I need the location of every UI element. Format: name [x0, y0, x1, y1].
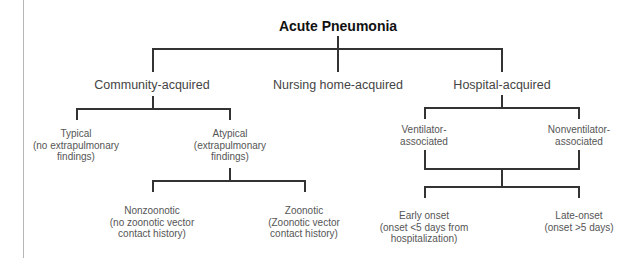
- nonzoonotic-desc-2: contact history): [110, 228, 195, 240]
- early-title: Early onset: [380, 210, 469, 222]
- connector-community-bar: [76, 108, 231, 110]
- connector-hospital-bar: [424, 107, 580, 109]
- left-margin-rule: [23, 0, 24, 258]
- nonventilator-line-2: associated: [548, 136, 610, 148]
- connector-early-drop: [424, 186, 426, 198]
- nonzoonotic-title: Nonzoonotic: [110, 205, 195, 217]
- connector-root-stub: [337, 36, 339, 72]
- connector-ventilator-rise: [424, 150, 426, 168]
- node-typical: Typical (no extrapulmonary findings): [33, 128, 119, 163]
- atypical-desc-1: (extrapulmonary: [194, 140, 266, 152]
- ventilator-line-2: associated: [400, 136, 448, 148]
- node-late-onset: Late-onset (onset >5 days): [544, 210, 613, 233]
- connector-atypical-bar: [152, 180, 306, 182]
- connector-onset-bar: [424, 186, 580, 188]
- node-nursing-home-acquired: Nursing home-acquired: [273, 78, 403, 92]
- connector-nonventilator-drop: [578, 107, 580, 119]
- node-nonventilator-associated: Nonventilator- associated: [548, 124, 610, 147]
- zoonotic-desc-2: contact history): [268, 228, 340, 240]
- connector-community-stub: [152, 96, 154, 108]
- node-zoonotic: Zoonotic (Zoonotic vector contact histor…: [268, 205, 340, 240]
- node-atypical: Atypical (extrapulmonary findings): [194, 128, 266, 163]
- connector-nonzoonotic-drop: [152, 180, 154, 192]
- connector-atypical-stub: [229, 168, 231, 180]
- ventilator-line-1: Ventilator-: [400, 124, 448, 136]
- node-early-onset: Early onset (onset <5 days from hospital…: [380, 210, 469, 245]
- nonventilator-line-1: Nonventilator-: [548, 124, 610, 136]
- typical-title: Typical: [33, 128, 119, 140]
- connector-hospital-stub: [501, 95, 503, 107]
- typical-desc-1: (no extrapulmonary: [33, 140, 119, 152]
- connector-root-bar: [152, 48, 503, 50]
- connector-zoonotic-drop: [304, 180, 306, 192]
- late-title: Late-onset: [544, 210, 613, 222]
- early-desc-1: (onset <5 days from: [380, 222, 469, 234]
- connector-typical-drop: [76, 108, 78, 120]
- node-community-acquired: Community-acquired: [94, 78, 209, 92]
- connector-atypical-drop: [229, 108, 231, 120]
- connector-hospital-drop: [501, 48, 503, 72]
- zoonotic-title: Zoonotic: [268, 205, 340, 217]
- typical-desc-2: findings): [33, 151, 119, 163]
- connector-ventilator-drop: [424, 107, 426, 119]
- zoonotic-desc-1: (Zoonotic vector: [268, 217, 340, 229]
- node-ventilator-associated: Ventilator- associated: [400, 124, 448, 147]
- nonzoonotic-desc-1: (no zoonotic vector: [110, 217, 195, 229]
- atypical-desc-2: findings): [194, 151, 266, 163]
- connector-nonventilator-rise: [578, 150, 580, 168]
- connector-community-drop: [152, 48, 154, 72]
- early-desc-2: hospitalization): [380, 233, 469, 245]
- node-nonzoonotic: Nonzoonotic (no zoonotic vector contact …: [110, 205, 195, 240]
- atypical-title: Atypical: [194, 128, 266, 140]
- node-hospital-acquired: Hospital-acquired: [453, 78, 550, 92]
- late-desc-1: (onset >5 days): [544, 222, 613, 234]
- connector-late-drop: [578, 186, 580, 198]
- diagram-title: Acute Pneumonia: [279, 18, 397, 34]
- connector-onset-stub: [501, 168, 503, 186]
